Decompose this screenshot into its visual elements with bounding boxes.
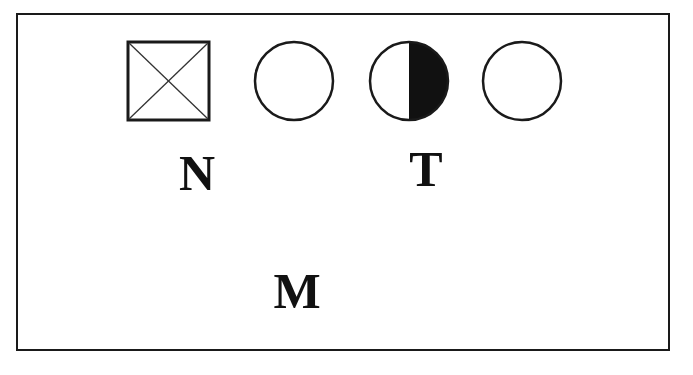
- symbols-layer: [0, 0, 693, 375]
- label-n: N: [179, 148, 215, 198]
- half-filled-circle-icon: [370, 42, 448, 120]
- open-circle-icon: [255, 42, 333, 120]
- label-m: M: [273, 266, 320, 316]
- crossed-square-icon: [128, 42, 209, 120]
- open-circle-icon: [483, 42, 561, 120]
- label-t: T: [409, 144, 442, 194]
